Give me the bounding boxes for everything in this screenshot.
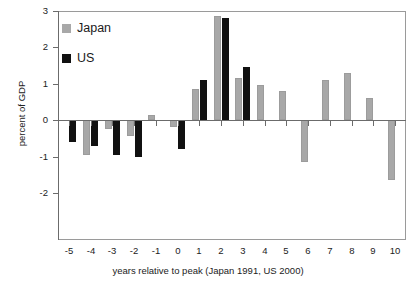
x-tick [178,121,179,126]
x-tick [286,121,287,126]
y-axis-line [58,11,59,240]
bar-us-1 [200,80,207,120]
legend-label-japan: Japan [77,22,111,35]
x-tick [134,121,135,126]
bar-japan-0 [170,120,177,127]
y-tick-label: 3 [24,6,48,16]
x-tick [91,121,92,126]
x-tick [373,121,374,126]
x-tick [156,121,157,126]
x-tick [69,121,70,126]
chart-figure: -2-10123 -5-4-3-2-1012345678910 percent … [0,0,416,286]
bar-japan-2 [214,16,221,120]
y-tick-label: 2 [24,42,48,52]
y-tick-label: 0 [24,115,48,125]
bar-us-3 [243,67,250,120]
legend-swatch-us-icon [62,54,71,63]
y-tick [53,84,58,85]
bar-japan--4 [83,120,90,155]
bar-japan-10 [388,120,395,180]
y-tick-label: -2 [24,188,48,198]
bar-japan-4 [257,85,264,120]
x-tick [308,121,309,126]
x-tick [352,121,353,126]
bar-japan-9 [366,98,373,120]
bar-us--5 [69,120,76,142]
y-tick-label: -1 [24,152,48,162]
bar-japan-1 [192,89,199,120]
bar-japan-3 [235,78,242,120]
legend-swatch-japan-icon [62,24,71,33]
x-tick [221,121,222,126]
y-tick [53,157,58,158]
bar-us--2 [135,120,142,157]
y-tick [53,47,58,48]
x-tick [330,121,331,126]
bar-japan--3 [105,120,112,129]
bar-us--3 [113,120,120,155]
bar-japan-8 [344,73,351,120]
legend-entry-japan: Japan [62,22,111,35]
bar-japan-6 [301,120,308,162]
bar-us--4 [91,120,98,146]
x-tick-label: 10 [380,246,410,256]
x-tick [199,121,200,126]
x-tick [395,121,396,126]
y-tick [53,120,58,121]
x-tick [243,121,244,126]
legend-entry-us: US [62,52,94,65]
legend-label-us: US [77,52,94,65]
zero-baseline [58,120,406,121]
bar-japan--2 [127,120,134,136]
y-axis-title: percent of GDP [16,59,27,169]
y-tick-label: 1 [24,79,48,89]
bar-japan-5 [279,91,286,120]
bar-us-0 [178,120,185,149]
bar-japan-7 [322,80,329,120]
x-axis-title: years relative to peak (Japan 1991, US 2… [0,265,416,276]
bar-us-2 [222,18,229,120]
y-tick [53,11,58,12]
y-tick [53,193,58,194]
x-tick [112,121,113,126]
x-tick [265,121,266,126]
